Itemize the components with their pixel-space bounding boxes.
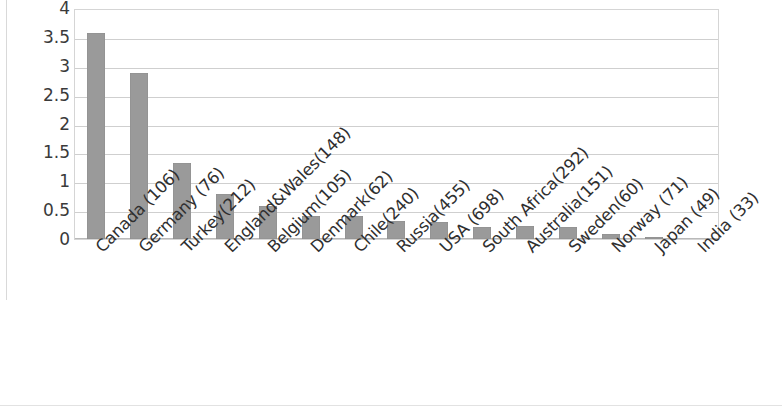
- y-tick-label: 2: [8, 116, 70, 133]
- y-tick-label: 1: [8, 173, 70, 190]
- page-edge-artifact-left: [6, 0, 7, 300]
- bar-chart: 00.511.522.533.54 Canada (106)Germany (7…: [0, 0, 782, 420]
- y-tick-label: 4: [8, 0, 70, 17]
- y-tick-label: 3.5: [8, 29, 70, 46]
- y-axis: 00.511.522.533.54: [8, 0, 70, 248]
- y-tick-label: 1.5: [8, 144, 70, 161]
- y-tick-label: 0: [8, 231, 70, 248]
- y-tick-label: 3: [8, 58, 70, 75]
- y-tick-label: 2.5: [8, 87, 70, 104]
- x-axis-labels: Canada (106)Germany (76)Turkey(212)Engla…: [74, 243, 719, 413]
- y-tick-label: 0.5: [8, 202, 70, 219]
- bar: [87, 33, 105, 239]
- bar-slot: [75, 10, 118, 239]
